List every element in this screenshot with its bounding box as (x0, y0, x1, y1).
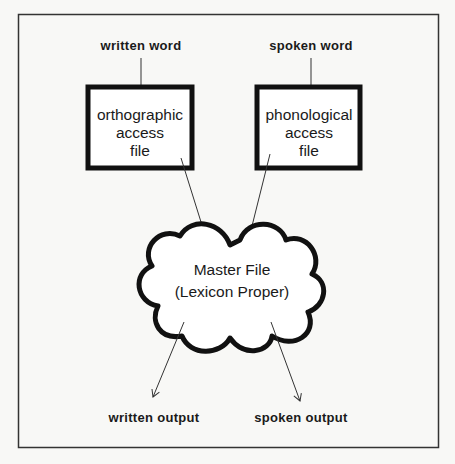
master-file-title: Master File (194, 261, 271, 278)
written-word-label: written word (100, 38, 182, 53)
orthographic-line-2: access (116, 124, 164, 141)
phonological-line-1: phonological (265, 106, 352, 123)
written-output-label: written output (108, 410, 200, 425)
phonological-line-2: access (285, 124, 333, 141)
spoken-word-label: spoken word (269, 38, 352, 53)
diagram-frame (19, 15, 439, 448)
spoken-output-label: spoken output (254, 410, 348, 425)
phonological-line-3: file (299, 142, 319, 159)
master-file-subtitle: (Lexicon Proper) (175, 283, 290, 300)
lexicon-diagram: written word spoken word orthographic ac… (0, 0, 455, 464)
orthographic-line-1: orthographic (97, 106, 183, 123)
orthographic-line-3: file (130, 142, 150, 159)
